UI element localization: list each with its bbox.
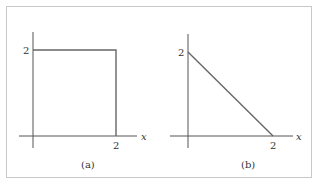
- x-axis-label: x: [296, 131, 302, 142]
- y-tick-label: 2: [178, 47, 184, 58]
- panel-a: 2 2 x (a): [19, 32, 147, 170]
- x-axis-label: x: [141, 131, 147, 142]
- y-tick-label: 2: [23, 45, 29, 56]
- caption-a: (a): [81, 159, 95, 170]
- x-tick-label: 2: [113, 140, 119, 151]
- caption-b: (b): [241, 159, 255, 170]
- panel-b: 2 2 x (b): [170, 34, 302, 170]
- figure-canvas: 2 2 x (a) 2 2 x (b): [0, 0, 319, 184]
- diagonal-line: [188, 52, 273, 136]
- x-tick-label: 2: [270, 140, 276, 151]
- square-boundary: [33, 50, 116, 136]
